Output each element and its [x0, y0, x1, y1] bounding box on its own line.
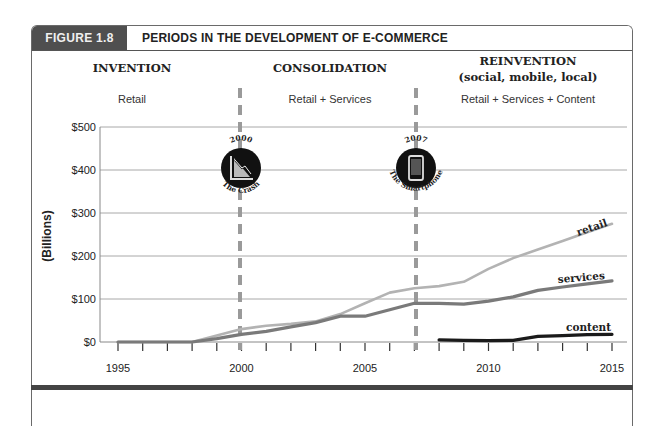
period-subtitle-reinvention: (social, mobile, local) — [458, 70, 597, 84]
y-tick-labels: $0$100$200$300$400$500 — [72, 121, 96, 348]
y-tick-label: $200 — [72, 250, 96, 262]
x-ticks: 19952000200520102015 — [106, 343, 624, 374]
x-tick-label: 2005 — [353, 362, 377, 374]
y-tick-label: $0 — [84, 336, 96, 348]
period-title-consolidation: CONSOLIDATION — [273, 61, 388, 75]
milestone-smartphone-badge: 2007 The Smartphone — [387, 133, 444, 192]
series-label-retail: retail — [575, 216, 609, 238]
y-tick-label: $500 — [72, 121, 96, 133]
series-lines — [118, 224, 612, 342]
period-desc-invention: Retail — [118, 93, 146, 105]
x-tick-label: 1995 — [106, 362, 130, 374]
period-desc-reinvention: Retail + Services + Content — [461, 93, 595, 105]
x-tick-label: 2000 — [229, 362, 253, 374]
period-title-invention: INVENTION — [93, 61, 172, 75]
series-line-retail — [118, 224, 612, 342]
y-tick-label: $300 — [72, 207, 96, 219]
period-desc-consolidation: Retail + Services — [289, 93, 372, 105]
y-tick-label: $100 — [72, 293, 96, 305]
series-label-content: content — [566, 321, 611, 333]
x-tick-label: 2015 — [600, 362, 624, 374]
y-axis-label: (Billions) — [40, 210, 54, 261]
series-line-content — [439, 334, 612, 340]
period-title-reinvention: REINVENTION — [480, 54, 577, 68]
gridlines — [100, 127, 627, 342]
y-tick-label: $400 — [72, 164, 96, 176]
x-tick-label: 2010 — [476, 362, 500, 374]
series-line-services — [118, 281, 612, 342]
